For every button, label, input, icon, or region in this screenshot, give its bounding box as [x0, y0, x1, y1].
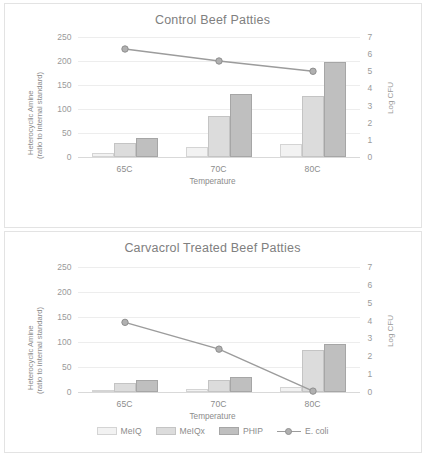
y2-axis-tick-label: 4: [368, 83, 373, 93]
y2-axis-tick-label: 5: [368, 298, 373, 308]
legend-label: PHIP: [243, 426, 263, 436]
figure-root: Control Beef Patties 0501001502002500123…: [0, 3, 425, 457]
y2-axis-tick-label: 3: [368, 101, 373, 111]
legend-label: MeIQx: [180, 426, 205, 436]
y2-axis-title: Log CFU: [386, 314, 395, 346]
ecoli-line-series: [78, 267, 360, 392]
ecoli-data-point: [121, 319, 127, 325]
legend-item-meiqx[interactable]: MeIQx: [156, 426, 205, 436]
y-axis-tick-label: 150: [44, 312, 72, 322]
ecoli-data-point: [309, 388, 315, 394]
y-axis-tick-label: 0: [44, 387, 72, 397]
y-axis-tick-label: 0: [44, 152, 72, 162]
legend-label: MeIQ: [121, 426, 142, 436]
y-axis-tick-label: 100: [44, 104, 72, 114]
y-axis-tick-label: 250: [44, 32, 72, 42]
y-axis-tick-label: 200: [44, 287, 72, 297]
y-axis-tick-label: 250: [44, 262, 72, 272]
y-axis-tick-label: 50: [44, 362, 72, 372]
y2-axis-tick-label: 2: [368, 351, 373, 361]
x-axis-category-label: 65C: [117, 164, 133, 174]
legend-label: E. coli: [305, 426, 328, 436]
plot-area: [78, 267, 360, 392]
ecoli-data-point: [215, 346, 221, 352]
y-axis-tick-label: 100: [44, 337, 72, 347]
x-axis-category-label: 65C: [117, 399, 133, 409]
y-axis-tick-label: 50: [44, 128, 72, 138]
y2-axis-tick-label: 5: [368, 66, 373, 76]
y2-axis-tick-label: 7: [368, 262, 373, 272]
y2-axis-tick-label: 1: [368, 369, 373, 379]
legend-swatch-icon: [156, 427, 176, 435]
legend-item-phip[interactable]: PHIP: [219, 426, 263, 436]
y2-axis-tick-label: 1: [368, 135, 373, 145]
legend-line-marker-icon: [277, 427, 301, 436]
y2-axis-title: Log CFU: [386, 82, 395, 114]
y-axis-tick-label: 200: [44, 56, 72, 66]
ecoli-data-point: [215, 58, 221, 64]
legend-swatch-icon: [97, 427, 117, 435]
chart-title-control: Control Beef Patties: [5, 4, 421, 29]
y2-axis-tick-label: 6: [368, 49, 373, 59]
y-axis-title-line1: Heterocyclic Amine: [26, 90, 35, 155]
ecoli-data-point: [121, 46, 127, 52]
y-axis-title-line2: (ratio to internal standard): [35, 72, 44, 159]
plot-area: [78, 37, 360, 157]
chart-panel-control: Control Beef Patties 0501001502002500123…: [4, 3, 422, 228]
y-axis-tick-label: 150: [44, 80, 72, 90]
x-axis-title: Temperature: [5, 412, 421, 421]
y2-axis-tick-label: 3: [368, 333, 373, 343]
y-axis-title-line1: Heterocyclic Amine: [26, 325, 35, 390]
legend-item-meiq[interactable]: MeIQ: [97, 426, 142, 436]
chart-panel-carvacrol: Carvacrol Treated Beef Patties 050100150…: [4, 231, 422, 453]
x-axis-category-label: 70C: [211, 399, 227, 409]
y2-axis-tick-label: 4: [368, 316, 373, 326]
ecoli-polyline: [125, 322, 313, 391]
x-axis-title: Temperature: [5, 177, 421, 186]
y2-axis-tick-label: 0: [368, 387, 373, 397]
y2-axis-tick-label: 7: [368, 32, 373, 42]
ecoli-data-point: [309, 68, 315, 74]
x-axis-category-label: 70C: [211, 164, 227, 174]
legend-swatch-icon: [219, 427, 239, 435]
x-axis-category-label: 80C: [305, 399, 321, 409]
y2-axis-tick-label: 2: [368, 118, 373, 128]
y-axis-title-line2: (ratio to internal standard): [35, 307, 44, 394]
y2-axis-tick-label: 0: [368, 152, 373, 162]
chart-title-carvacrol: Carvacrol Treated Beef Patties: [5, 232, 421, 257]
y2-axis-tick-label: 6: [368, 280, 373, 290]
x-axis-line: [78, 157, 360, 158]
x-axis-category-label: 80C: [305, 164, 321, 174]
x-axis-line: [78, 392, 360, 393]
chart-legend: MeIQMeIQxPHIPE. coli: [5, 426, 421, 436]
ecoli-line-series: [78, 37, 360, 157]
legend-item-e-coli[interactable]: E. coli: [277, 426, 328, 436]
